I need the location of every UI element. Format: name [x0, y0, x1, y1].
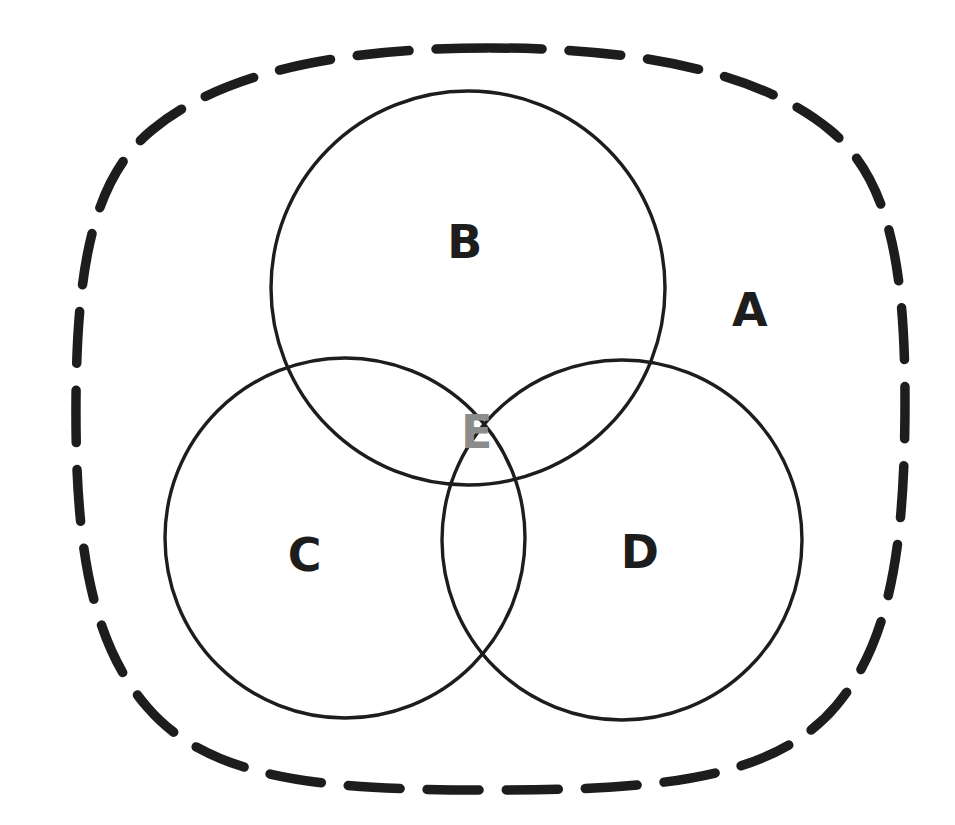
- venn-diagram-canvas: A B C D E: [0, 0, 955, 825]
- label-e: E: [461, 405, 493, 459]
- region-labels-group: A B C D E: [288, 215, 768, 582]
- label-c: C: [288, 528, 322, 582]
- label-d: D: [621, 525, 660, 579]
- label-b: B: [447, 215, 483, 269]
- venn-diagram-svg: A B C D E: [0, 0, 955, 825]
- label-a: A: [732, 283, 768, 337]
